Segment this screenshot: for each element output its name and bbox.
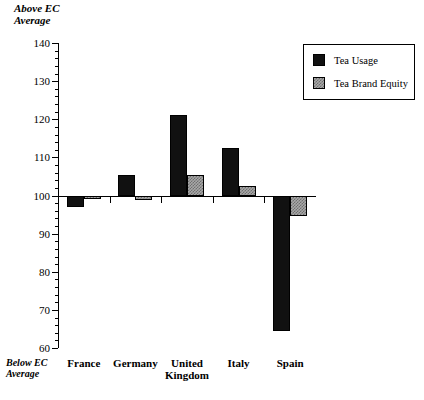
category-tick (264, 196, 265, 203)
y-tick-minor (55, 302, 58, 303)
y-tick-minor (55, 188, 58, 189)
y-tick-minor (55, 203, 58, 204)
y-tick-minor (55, 51, 58, 52)
legend-label: Tea Brand Equity (334, 78, 408, 89)
y-tick-major (52, 157, 58, 158)
bar-tea-usage (273, 196, 290, 331)
y-tick-minor (55, 66, 58, 67)
y-tick-major (52, 43, 58, 44)
y-tick-minor (55, 241, 58, 242)
y-tick-minor (55, 249, 58, 250)
category-label: United Kingdom (165, 357, 209, 381)
y-tick-minor (55, 264, 58, 265)
y-tick-major (52, 196, 58, 197)
above-average-caption: Above EC Average (14, 2, 60, 26)
category-label: Italy (228, 357, 250, 369)
y-tick-minor (55, 112, 58, 113)
y-tick-minor (55, 142, 58, 143)
y-tick-major (52, 119, 58, 120)
bar-tea-brand-equity (135, 196, 152, 201)
y-tick-label: 140 (34, 37, 51, 49)
bar-tea-brand-equity (84, 196, 101, 200)
y-tick-minor (55, 325, 58, 326)
gray-checkered-swatch (313, 77, 325, 89)
chart-plot-area: 60708090100110120130140 (58, 43, 316, 348)
y-tick-minor (55, 104, 58, 105)
y-tick-minor (55, 165, 58, 166)
legend-item-tea-brand-equity: Tea Brand Equity (313, 77, 408, 89)
category-tick (213, 196, 214, 203)
y-tick-minor (55, 150, 58, 151)
y-tick-minor (55, 295, 58, 296)
y-tick-label: 80 (39, 266, 50, 278)
y-tick-label: 130 (34, 75, 51, 87)
y-tick-minor (55, 333, 58, 334)
y-tick-minor (55, 135, 58, 136)
bar-tea-usage (170, 115, 187, 195)
bar-tea-usage (118, 175, 135, 196)
y-tick-minor (55, 74, 58, 75)
bar-tea-usage (222, 148, 239, 196)
y-tick-label: 60 (39, 342, 50, 354)
y-tick-minor (55, 279, 58, 280)
y-tick-minor (55, 340, 58, 341)
y-tick-minor (55, 127, 58, 128)
black-solid-swatch (313, 54, 325, 66)
y-tick-minor (55, 318, 58, 319)
y-tick-label: 110 (34, 151, 50, 163)
y-tick-minor (55, 89, 58, 90)
bar-tea-usage (67, 196, 84, 207)
bar-tea-brand-equity (290, 196, 307, 217)
bar-tea-brand-equity (187, 175, 204, 196)
category-tick (110, 196, 111, 203)
y-tick-major (52, 234, 58, 235)
y-tick-label: 90 (39, 228, 50, 240)
y-tick-label: 70 (39, 304, 50, 316)
y-tick-label: 100 (34, 190, 51, 202)
bar-tea-brand-equity (239, 186, 256, 196)
category-label: Germany (113, 357, 158, 369)
y-tick-minor (55, 180, 58, 181)
y-tick-major (52, 310, 58, 311)
y-tick-minor (55, 287, 58, 288)
category-label: Spain (277, 357, 304, 369)
y-tick-minor (55, 226, 58, 227)
y-tick-major (52, 348, 58, 349)
below-average-caption: Below EC Average (6, 357, 47, 379)
y-tick-major (52, 81, 58, 82)
chart-legend: Tea Usage Tea Brand Equity (303, 44, 415, 100)
legend-label: Tea Usage (334, 55, 378, 66)
y-tick-minor (55, 96, 58, 97)
y-tick-minor (55, 257, 58, 258)
y-tick-major (52, 272, 58, 273)
y-tick-minor (55, 218, 58, 219)
legend-item-tea-usage: Tea Usage (313, 54, 378, 66)
category-label: France (67, 357, 100, 369)
y-tick-minor (55, 58, 58, 59)
category-tick (161, 196, 162, 203)
y-tick-minor (55, 173, 58, 174)
y-tick-minor (55, 211, 58, 212)
y-tick-label: 120 (34, 113, 51, 125)
